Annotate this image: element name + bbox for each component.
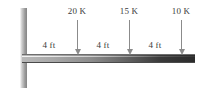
load-label-1: 20 K <box>68 6 87 16</box>
dimension-label-2: 4 ft <box>96 40 109 50</box>
dimension-label-3: 4 ft <box>148 40 161 50</box>
beam-load-diagram: 20 K 15 K 10 K 4 ft 4 ft 4 ft <box>0 0 207 95</box>
arrow-shaft-icon <box>77 20 78 50</box>
arrow-shaft-icon <box>181 20 182 50</box>
arrow-head-icon <box>127 49 133 55</box>
beam-bottom-edge <box>22 62 195 63</box>
beam-highlight <box>22 56 195 57</box>
arrow-shaft-icon <box>129 20 130 50</box>
arrow-head-icon <box>75 49 81 55</box>
arrow-head-icon <box>179 49 185 55</box>
dimension-label-1: 4 ft <box>42 40 55 50</box>
load-label-3: 10 K <box>172 6 191 16</box>
fixed-wall-support <box>20 8 27 88</box>
load-label-2: 15 K <box>120 6 139 16</box>
